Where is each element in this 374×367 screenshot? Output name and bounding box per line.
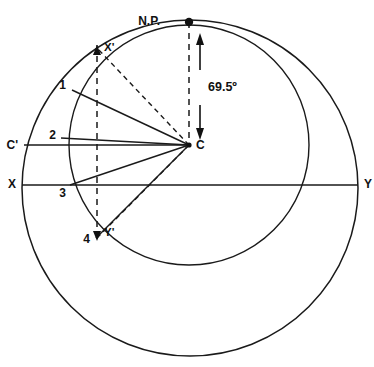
label-c-prime: C' [6, 138, 18, 152]
label-point-1: 1 [59, 78, 66, 92]
outer-circle [22, 20, 358, 356]
label-x: X [8, 177, 16, 191]
label-y: Y [364, 177, 372, 191]
north-pole-dot [185, 18, 193, 26]
label-center-c: C [196, 138, 205, 152]
dashed-radial-c-to-xprime [97, 48, 189, 145]
radial-line-c-to-1 [72, 90, 189, 145]
label-north-pole: N.P. [138, 14, 160, 28]
geometry-diagram: N.P. X' C' X Y Y' C 1 2 3 4 69.5º [0, 0, 374, 367]
dashed-radial-c-to-yprime [97, 145, 189, 238]
figure-root: N.P. X' C' X Y Y' C 1 2 3 4 69.5º [0, 0, 374, 367]
radial-line-c-to-3 [70, 145, 189, 185]
label-x-prime: X' [104, 41, 115, 53]
angle-arrow-up-head [196, 33, 204, 45]
label-point-2: 2 [49, 128, 56, 142]
center-point-dot [186, 142, 191, 147]
label-point-3: 3 [59, 186, 66, 200]
radial-line-c-to-2 [61, 138, 189, 145]
label-y-prime: Y' [104, 226, 115, 238]
label-point-4: 4 [83, 232, 90, 246]
label-angle-value: 69.5º [208, 80, 237, 94]
